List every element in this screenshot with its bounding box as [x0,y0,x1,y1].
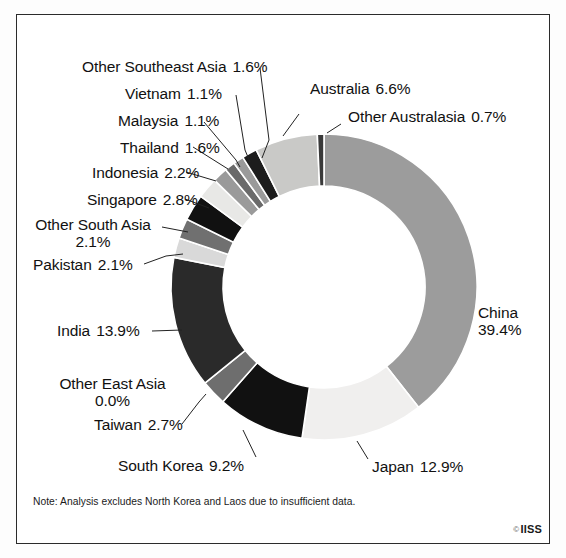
leader-vietnam [236,95,250,162]
slice-name-singapore: Singapore [87,191,157,208]
slice-pct-pakistan: 2.1% [98,256,133,273]
leader-south-korea [243,430,256,457]
slice-name-china: China [478,304,518,321]
slice-pct-taiwan: 2.7% [148,416,183,433]
leader-other-southeast-asia [260,68,269,158]
slice-name-vietnam: Vietnam [125,85,181,102]
slice-pct-other-east-asia: 0.0% [95,392,130,409]
slice-label-other-east-asia: Other East Asia 0.0% [45,375,180,410]
slice-pct-vietnam: 1.1% [187,85,222,102]
slice-label-singapore: Singapore2.8% [87,191,198,208]
slice-pct-india: 13.9% [96,322,139,339]
slice-name-other-southeast-asia: Other Southeast Asia [82,58,226,75]
slice-pct-indonesia: 2.2% [164,164,199,181]
donut-slices [171,134,477,440]
leader-other-australasia [327,124,341,133]
slice-name-other-south-asia: Other South Asia [35,216,151,233]
slice-pct-other-australasia: 0.7% [471,108,506,125]
slice-pct-japan: 12.9% [420,458,463,475]
figure-donut-chart: Other Southeast Asia1.6% Vietnam1.1% Mal… [0,0,566,558]
slice-label-india: India13.9% [57,322,140,339]
slice-pct-other-southeast-asia: 1.6% [232,58,267,75]
slice-name-india: India [57,322,90,339]
slice-label-china: China 39.4% [478,304,558,339]
slice-name-indonesia: Indonesia [92,164,158,181]
slice-name-japan: Japan [372,458,414,475]
slice-label-vietnam: Vietnam1.1% [125,85,222,102]
slice-label-south-korea: South Korea9.2% [118,457,244,474]
copyright-icon: © [513,525,519,534]
slice-name-australia: Australia [310,80,369,97]
slice-name-south-korea: South Korea [118,457,203,474]
slice-name-other-australasia: Other Australasia [348,108,465,125]
slice-label-other-southeast-asia: Other Southeast Asia1.6% [82,58,267,75]
slice-pct-thailand: 1.6% [185,139,220,156]
donut-slice-china[interactable] [324,134,477,407]
slice-pct-singapore: 2.8% [163,191,198,208]
chart-note: Note: Analysis excludes North Korea and … [33,496,355,507]
slice-label-malaysia: Malaysia1.1% [118,112,219,129]
slice-name-thailand: Thailand [120,139,179,156]
slice-label-australia: Australia6.6% [310,80,410,97]
slice-name-other-east-asia: Other East Asia [59,375,165,392]
slice-name-pakistan: Pakistan [33,256,92,273]
slice-label-pakistan: Pakistan2.1% [33,256,133,273]
donut-chart-svg [0,0,566,558]
leader-japan [357,441,368,459]
slice-label-japan: Japan12.9% [372,458,463,475]
copyright-credit: ©IISS [513,523,542,535]
slice-name-taiwan: Taiwan [94,416,142,433]
slice-label-other-australasia: Other Australasia0.7% [348,108,506,125]
slice-label-taiwan: Taiwan2.7% [94,416,183,433]
slice-name-malaysia: Malaysia [118,112,178,129]
slice-pct-south-korea: 9.2% [209,457,244,474]
slice-pct-other-south-asia: 2.1% [76,233,111,250]
slice-label-thailand: Thailand1.6% [120,139,220,156]
leader-australia [283,114,299,136]
credit-label: IISS [520,523,542,535]
leader-taiwan [182,394,206,424]
slice-pct-australia: 6.6% [375,80,410,97]
slice-label-other-south-asia: Other South Asia 2.1% [28,216,158,251]
slice-pct-china: 39.4% [478,321,521,338]
slice-label-indonesia: Indonesia2.2% [92,164,199,181]
slice-pct-malaysia: 1.1% [184,112,219,129]
